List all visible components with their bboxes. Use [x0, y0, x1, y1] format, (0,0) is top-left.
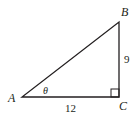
right-angle-marker — [111, 89, 119, 97]
vertex-label-c: C — [119, 99, 128, 113]
side-label-bc: 9 — [124, 53, 130, 65]
angle-theta-label: θ — [43, 85, 48, 96]
vertex-label-b: B — [121, 5, 129, 19]
vertex-label-a: A — [7, 91, 16, 105]
right-triangle-diagram: B A C θ 12 9 — [0, 0, 136, 115]
triangle-abc — [22, 22, 119, 97]
side-label-ac: 12 — [65, 102, 76, 114]
